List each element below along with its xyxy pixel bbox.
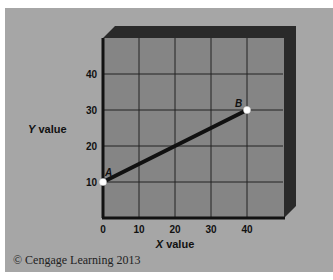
point-label: A — [104, 167, 112, 178]
data-point-a — [100, 179, 107, 186]
point-label: B — [235, 98, 242, 109]
y-tick-label: 30 — [86, 105, 98, 116]
plot-area — [103, 38, 284, 218]
y-tick-label: 10 — [86, 177, 98, 188]
x-tick-label: 30 — [205, 224, 217, 235]
x-axis-label: X value — [155, 238, 195, 250]
copyright-credit: © Cengage Learning 2013 — [13, 253, 140, 268]
line-chart: 01020304010203040 AB Y value X value — [0, 0, 333, 280]
x-tick-label: 10 — [133, 224, 145, 235]
y-tick-label: 20 — [86, 141, 98, 152]
y-axis-label: Y value — [28, 123, 67, 135]
x-tick-label: 20 — [169, 224, 181, 235]
y-tick-label: 40 — [86, 69, 98, 80]
x-tick-label: 40 — [241, 224, 253, 235]
x-tick-label: 0 — [100, 224, 106, 235]
data-point-b — [244, 107, 251, 114]
